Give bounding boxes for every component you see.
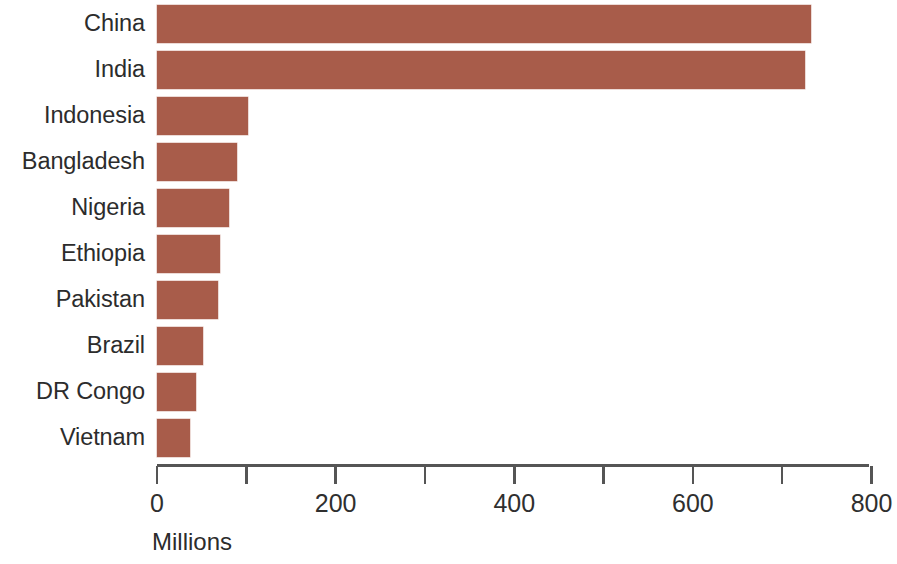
category-label: India (0, 47, 145, 93)
bar-row: Pakistan (0, 277, 880, 323)
category-label: Indonesia (0, 93, 145, 139)
x-tick-label: 400 (454, 489, 574, 518)
bar (157, 51, 805, 89)
bar (157, 97, 248, 135)
category-label: Brazil (0, 323, 145, 369)
bar-row: DR Congo (0, 369, 880, 415)
bar-row: Nigeria (0, 185, 880, 231)
x-tick-label: 800 (812, 489, 897, 518)
x-tick-label: 600 (633, 489, 753, 518)
bar (157, 373, 196, 411)
category-label: Pakistan (0, 277, 145, 323)
x-tick-label: 200 (276, 489, 396, 518)
bar-row: Brazil (0, 323, 880, 369)
bar-row: China (0, 1, 880, 47)
bar (157, 143, 237, 181)
category-label: DR Congo (0, 369, 145, 415)
x-axis-title: Millions (152, 528, 232, 556)
category-label: Vietnam (0, 415, 145, 461)
category-label: Bangladesh (0, 139, 145, 185)
bar (157, 189, 229, 227)
bar-row: Bangladesh (0, 139, 880, 185)
category-label: China (0, 1, 145, 47)
category-label: Nigeria (0, 185, 145, 231)
bar-row: Indonesia (0, 93, 880, 139)
bar-row: India (0, 47, 880, 93)
x-tick-label: 0 (97, 489, 217, 518)
bar-row: Ethiopia (0, 231, 880, 277)
category-label: Ethiopia (0, 231, 145, 277)
bar (157, 281, 218, 319)
bar (157, 419, 190, 457)
bar-row: Vietnam (0, 415, 880, 461)
bar (157, 235, 220, 273)
bar (157, 327, 203, 365)
bar (157, 5, 811, 43)
